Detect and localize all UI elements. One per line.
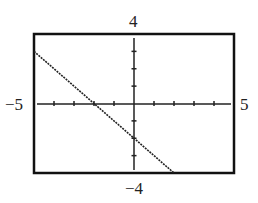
line-series	[34, 51, 174, 173]
graph-window	[0, 0, 258, 203]
